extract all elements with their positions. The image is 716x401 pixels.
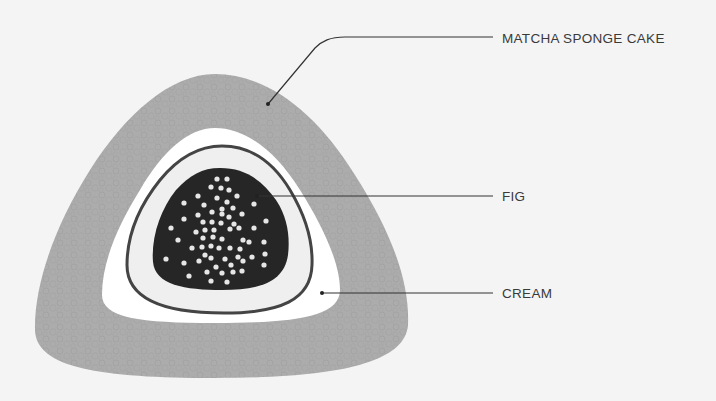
cake-cross-section-diagram: MATCHA SPONGE CAKE FIG CREAM <box>0 0 716 401</box>
label-cream: CREAM <box>502 286 552 301</box>
leader-matcha <box>268 37 493 104</box>
diagram-canvas <box>0 0 716 401</box>
label-matcha-sponge-cake: MATCHA SPONGE CAKE <box>502 31 665 46</box>
label-fig: FIG <box>502 189 525 204</box>
